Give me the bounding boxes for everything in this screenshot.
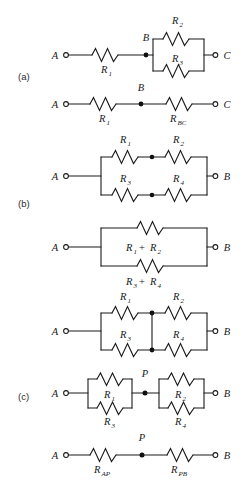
resistor-a1-R3 — [163, 65, 189, 78]
terminal-node-c1-B — [213, 329, 218, 334]
resistor-label-b1-R1: R 1 — [119, 134, 131, 148]
resistor-label-b1-R4-letter: R — [172, 173, 180, 184]
resistor-label-a1-R2-sub: 2 — [180, 21, 184, 29]
circuit-a1: A B C R — [51, 15, 232, 78]
resistor-label-c1-R2-letter: R — [172, 291, 180, 302]
resistor-label-a1-R3-sub: 3 — [179, 59, 184, 67]
resistor-label-a1-R3: R 3 — [171, 53, 184, 67]
branch-label-b2-top-R1-sub: 1 — [134, 248, 138, 256]
terminal-label-c2-A: A — [51, 388, 59, 399]
resistor-label-c1-R3-sub: 3 — [127, 335, 132, 343]
resistor-label-c2-R4-letter: R — [174, 416, 182, 427]
resistor-label-c1-R3: R 3 — [119, 329, 132, 343]
panel-c-label: (c) — [18, 391, 29, 402]
branch-label-b2-bottom-R3-sub: 3 — [133, 282, 138, 290]
resistor-c2-R2 — [168, 373, 194, 386]
resistor-b1-R4 — [165, 189, 191, 202]
resistor-label-b1-R4-sub: 4 — [181, 179, 185, 187]
panel-b-label: (b) — [18, 198, 30, 209]
resistor-label-c2-R2-letter: R — [174, 389, 182, 400]
resistor-label-c2-R1-sub: 1 — [112, 395, 116, 403]
resistor-label-c1-R4-letter: R — [172, 329, 180, 340]
branch-label-b2-top-R1-letter: R — [125, 242, 133, 253]
resistor-label-c3-RAP-letter: R — [93, 464, 101, 475]
resistor-label-c1-R2-sub: 2 — [181, 297, 185, 305]
resistor-label-c2-R1: R 1 — [103, 389, 115, 403]
resistor-label-c2-R4: R 4 — [174, 416, 187, 430]
resistor-label-a1-R1-sub: 1 — [109, 70, 113, 78]
node-label-c2-P: P — [141, 368, 149, 379]
resistor-label-a1-R2-letter: R — [171, 15, 179, 26]
terminal-node-c2-A — [64, 391, 69, 396]
resistor-b1-R2 — [165, 151, 191, 164]
resistor-label-b1-R3-letter: R — [119, 173, 127, 184]
resistor-label-c3-RPB-letter: R — [170, 464, 178, 475]
panel-a: (a) A B C — [18, 15, 231, 127]
branch-label-b2-top-R2-sub: 2 — [158, 248, 162, 256]
panel-a-label: (a) — [18, 71, 30, 82]
resistor-c1-R1 — [112, 307, 138, 320]
terminal-label-b2-B: B — [224, 242, 231, 253]
node-label-a1-B: B — [143, 32, 150, 43]
circuit-diagram-figure: (a) A B C — [0, 0, 252, 483]
resistor-c3-RAP — [90, 449, 116, 462]
terminal-node-b1-B — [213, 174, 218, 179]
terminal-node-a1-A — [64, 53, 69, 58]
resistor-label-a1-R1: R 1 — [100, 64, 112, 78]
resistor-label-a1-R3-letter: R — [171, 53, 179, 64]
node-label-c3-P: P — [138, 432, 146, 443]
circuit-b2: A B R 1 + R 2 R — [51, 222, 231, 291]
resistor-c2-R3 — [97, 402, 123, 415]
terminal-node-a1-C — [213, 53, 218, 58]
panel-c: (c) A B — [18, 291, 231, 478]
circuit-a2: A B C R 1 R BC — [51, 82, 232, 127]
resistor-label-a2-RBC-letter: R — [169, 113, 177, 124]
resistor-label-c1-R4-sub: 4 — [181, 335, 185, 343]
terminal-label-a2-A: A — [51, 99, 59, 110]
terminal-label-c3-A: A — [51, 450, 59, 461]
resistor-label-c1-R1: R 1 — [119, 291, 131, 305]
branch-label-b2-bottom-R3-letter: R — [125, 276, 133, 287]
resistor-label-c2-R3-letter: R — [103, 416, 111, 427]
terminal-node-a2-A — [64, 102, 69, 107]
resistor-label-b1-R2: R 2 — [172, 134, 185, 148]
resistor-label-b1-R3: R 3 — [119, 173, 132, 187]
resistor-label-b1-R2-letter: R — [172, 134, 180, 145]
resistor-label-c1-R2: R 2 — [172, 291, 185, 305]
resistor-label-c2-R4-sub: 4 — [183, 422, 187, 430]
resistor-c1-R2 — [165, 307, 191, 320]
branch-label-b2-top-R2-letter: R — [149, 242, 157, 253]
branch-label-b2-bottom: R 3 + R 4 — [125, 276, 162, 290]
resistor-c1-R4 — [165, 344, 191, 357]
resistor-label-a1-R1-letter: R — [100, 64, 108, 75]
resistor-a1-R2 — [163, 33, 189, 46]
resistor-label-b1-R1-sub: 1 — [128, 140, 132, 148]
circuit-b1: A B — [51, 134, 231, 202]
resistor-label-a2-R1: R 1 — [98, 113, 110, 127]
terminal-label-c3-B: B — [224, 450, 231, 461]
terminal-node-c3-A — [64, 453, 69, 458]
circuit-c2: A P B — [51, 368, 231, 430]
resistor-label-b1-R2-sub: 2 — [181, 140, 185, 148]
terminal-label-b1-B: B — [224, 171, 231, 182]
resistor-a1-R1 — [92, 49, 118, 62]
resistor-label-c2-R3-sub: 3 — [111, 422, 116, 430]
resistor-label-a2-R1-letter: R — [98, 113, 106, 124]
branch-label-b2-bottom-plus: + — [139, 276, 145, 287]
terminal-node-b1-A — [64, 174, 69, 179]
resistor-label-a2-RBC: R BC — [169, 113, 187, 127]
resistor-label-c2-R1-letter: R — [103, 389, 111, 400]
panel-b: (b) A B — [18, 134, 231, 290]
terminal-label-a1-C: C — [223, 50, 231, 61]
terminal-label-a1-A: A — [51, 50, 59, 61]
terminal-label-a2-C: C — [223, 99, 231, 110]
resistor-c3-RPB — [167, 449, 193, 462]
resistor-label-a2-RBC-sub: BC — [178, 119, 187, 127]
resistor-label-a2-R1-sub: 1 — [107, 119, 111, 127]
resistor-a2-RBC — [166, 98, 192, 111]
circuit-c3: A P B R AP R PB — [51, 432, 231, 478]
branch-label-b2-bottom-R4-letter: R — [149, 276, 157, 287]
terminal-label-b2-A: A — [51, 242, 59, 253]
terminal-node-c1-A — [64, 329, 69, 334]
resistor-label-c2-R3: R 3 — [103, 416, 116, 430]
